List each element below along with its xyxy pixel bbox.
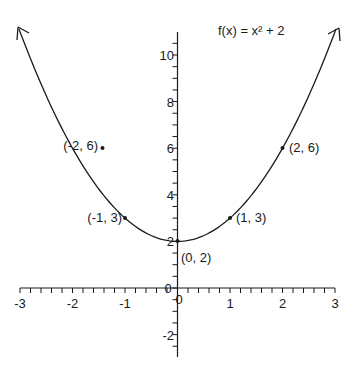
y-tick-label: -2 (162, 328, 174, 343)
x-tick-label: 2 (279, 296, 286, 311)
y-tick-label: 8 (167, 95, 174, 110)
point-label: (2, 6) (289, 140, 319, 155)
x-tick-label: -1 (119, 296, 131, 311)
y-tick-labels: -2 0 2 4 6 8 10 (160, 48, 183, 343)
y-tick-label: 0 (175, 292, 182, 307)
x-tick-label: 0 (164, 281, 171, 296)
point-label: (1, 3) (236, 210, 266, 225)
point-markers (101, 146, 285, 243)
x-tick-label: 3 (331, 296, 338, 311)
point-label: (-2, 6) (63, 138, 98, 153)
x-tick-label: -3 (14, 296, 26, 311)
x-tick-label: 1 (226, 296, 233, 311)
point-marker (176, 239, 180, 243)
point-label: (-1, 3) (87, 210, 122, 225)
y-tick-label: 4 (167, 188, 174, 203)
point-marker (281, 146, 285, 150)
x-tick-label: -2 (67, 296, 79, 311)
point-marker (228, 216, 232, 220)
y-tick-label: 10 (160, 48, 174, 63)
point-label: (0, 2) (181, 250, 211, 265)
y-tick-label: 6 (167, 141, 174, 156)
point-marker (101, 146, 105, 150)
point-labels: (-2, 6) (-1, 3) (0, 2) (1, 3) (2, 6) (63, 138, 319, 265)
chart-title: f(x) = x² + 2 (218, 23, 284, 38)
parabola-chart: -3 -2 -1 0 1 2 3 -2 0 2 4 6 8 10 (-2, 6)… (0, 0, 359, 376)
point-marker (123, 216, 127, 220)
